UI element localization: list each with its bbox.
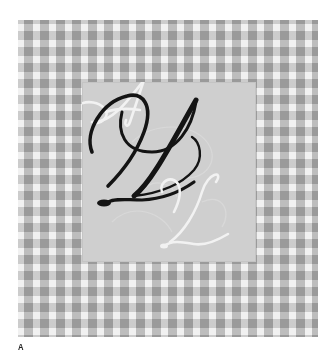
monogram-art <box>82 82 256 262</box>
figure-caption-label: A <box>18 342 24 352</box>
monogram-square <box>82 82 256 262</box>
checkered-pattern-panel <box>18 20 318 337</box>
